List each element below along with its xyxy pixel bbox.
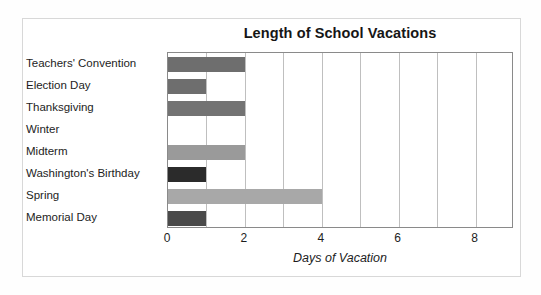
x-axis-title: Days of Vacation (167, 251, 513, 265)
bar-row (168, 207, 512, 229)
chart-figure: Length of School Vacations Teachers' Con… (0, 0, 541, 295)
bar-row (168, 163, 512, 185)
y-axis-label: Memorial Day (26, 206, 160, 228)
y-axis-label: Thanksgiving (26, 96, 160, 118)
y-axis-label: Washington's Birthday (26, 162, 160, 184)
bar (168, 145, 245, 160)
bar (168, 211, 206, 226)
bar-row (168, 97, 512, 119)
bar-row (168, 53, 512, 75)
bar-row (168, 185, 512, 207)
bar-series (168, 53, 512, 227)
x-axis-tick-label: 6 (394, 231, 401, 245)
y-axis-label: Election Day (26, 74, 160, 96)
y-axis-label: Midterm (26, 140, 160, 162)
bar (168, 79, 206, 94)
plot-area (167, 52, 513, 228)
bar (168, 57, 245, 72)
bar-row (168, 119, 512, 141)
bar (168, 167, 206, 182)
bar (168, 189, 322, 204)
y-axis-label: Spring (26, 184, 160, 206)
x-axis-tick-labels: 02468 (167, 231, 513, 249)
x-axis-tick-label: 0 (164, 231, 171, 245)
y-axis-label: Winter (26, 118, 160, 140)
bar (168, 101, 245, 116)
bar-row (168, 141, 512, 163)
x-axis-tick-label: 8 (471, 231, 478, 245)
x-axis-tick-label: 4 (317, 231, 324, 245)
y-axis-label: Teachers' Convention (26, 52, 160, 74)
x-axis-tick-label: 2 (241, 231, 248, 245)
chart-title: Length of School Vacations (167, 25, 513, 41)
y-axis-labels: Teachers' ConventionElection DayThanksgi… (26, 52, 164, 228)
bar-row (168, 75, 512, 97)
